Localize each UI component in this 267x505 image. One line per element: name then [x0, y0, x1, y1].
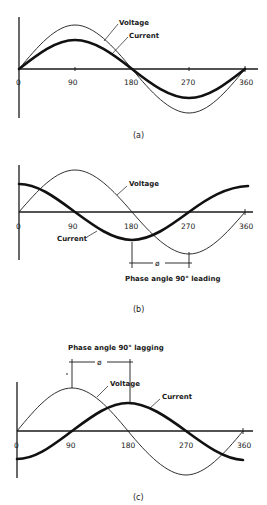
- tick-90: 90: [68, 78, 78, 87]
- voltage-label: Voltage: [119, 19, 149, 27]
- panel-b: Voltage Current 0 90 180 270 360 ø Phase…: [16, 165, 254, 314]
- tick-0: 0: [14, 441, 19, 450]
- tick-180: 180: [124, 222, 139, 231]
- tick-0: 0: [16, 222, 21, 231]
- current-label: Current: [162, 393, 193, 401]
- tick-90: 90: [68, 222, 78, 231]
- phase-symbol: ø: [97, 358, 102, 367]
- voltage-label: Voltage: [129, 180, 159, 188]
- tick-90: 90: [66, 441, 76, 450]
- panel-c: Voltage Current 0 90 180 270 360 Phase a…: [14, 344, 253, 502]
- phase-angle-text: Phase angle 90° leading: [125, 275, 220, 283]
- tick-360: 360: [239, 222, 254, 231]
- tick-180: 180: [121, 441, 136, 450]
- phase-symbol: ø: [155, 259, 160, 268]
- current-label: Current: [129, 32, 160, 40]
- tick-270: 270: [181, 222, 196, 231]
- phase-angle-text: Phase angle 90° lagging: [68, 344, 164, 352]
- phase-angle-diagram: Voltage Current 0 90 180 270 360 (a) Vol…: [0, 0, 267, 505]
- caption-a: (a): [133, 131, 144, 140]
- caption-b: (b): [133, 305, 144, 314]
- panel-a: Voltage Current 0 90 180 270 360 (a): [16, 17, 258, 140]
- voltage-label: Voltage: [110, 380, 140, 388]
- tick-270: 270: [181, 78, 196, 87]
- tick-180: 180: [124, 78, 139, 87]
- caption-c: (c): [133, 493, 144, 502]
- tick-360: 360: [239, 78, 254, 87]
- tick-360: 360: [237, 441, 252, 450]
- tick-0: 0: [16, 78, 21, 87]
- tick-270: 270: [179, 441, 194, 450]
- current-label: Current: [57, 235, 88, 243]
